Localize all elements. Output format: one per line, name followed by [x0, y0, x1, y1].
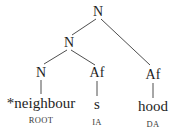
leaf-affix-infl-form: s: [94, 97, 100, 112]
node-inner: N: [64, 36, 74, 50]
edge-inner-to-affix-infl: [71, 50, 95, 65]
edge-inner-to-base: [44, 50, 67, 64]
node-root: N: [93, 5, 103, 19]
leaf-affix-deriv-form: hood: [138, 99, 168, 114]
node-base: N: [36, 66, 46, 80]
edge-root-to-inner: [72, 19, 96, 35]
edge-root-to-affix-deriv: [101, 19, 150, 65]
leaf-base-form: *neighbour: [7, 96, 75, 111]
tag-derivational-affix: DA: [147, 120, 160, 129]
node-affix-infl: Af: [90, 66, 105, 80]
tag-inflectional-affix: IA: [92, 118, 102, 127]
node-affix-deriv: Af: [146, 68, 161, 82]
tag-root: ROOT: [29, 116, 53, 125]
